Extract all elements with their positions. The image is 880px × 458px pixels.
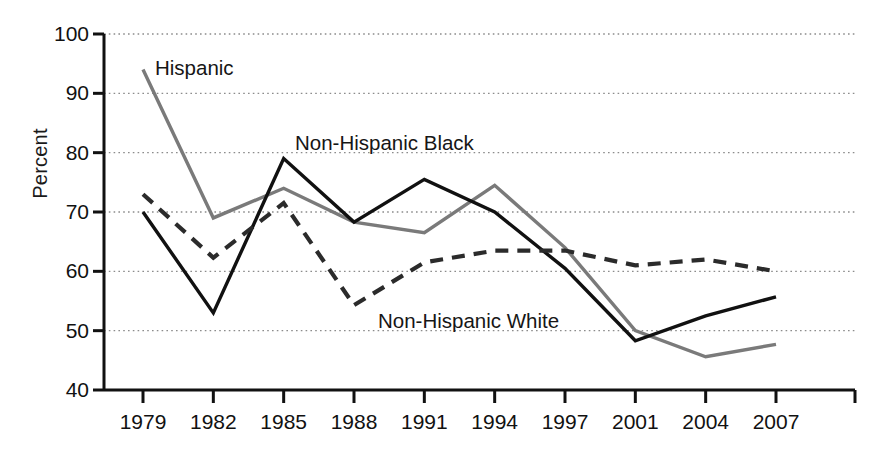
line-chart: Percent 100908070605040 1979198219851988… (0, 0, 880, 458)
x-tick-label: 1997 (530, 411, 600, 432)
gridlines (104, 34, 855, 390)
x-tick-label: 1985 (249, 411, 319, 432)
y-tick-label: 90 (37, 82, 89, 103)
y-tick-label: 40 (37, 379, 89, 400)
series-label-non-hispanic-black: Non-Hispanic Black (295, 133, 474, 154)
y-tick-label: 70 (37, 201, 89, 222)
plot-area (0, 0, 880, 458)
tick-marks (93, 34, 855, 403)
x-tick-label: 1988 (319, 411, 389, 432)
x-tick-label: 2004 (671, 411, 741, 432)
y-tick-label: 100 (37, 23, 89, 44)
x-tick-label: 1979 (108, 411, 178, 432)
y-tick-label: 80 (37, 142, 89, 163)
series-label-hispanic: Hispanic (155, 58, 234, 79)
x-tick-label: 1991 (389, 411, 459, 432)
y-tick-label: 50 (37, 320, 89, 341)
series-label-non-hispanic-white: Non-Hispanic White (378, 311, 559, 332)
x-tick-label: 1994 (460, 411, 530, 432)
x-tick-label: 2007 (741, 411, 811, 432)
x-tick-label: 2001 (600, 411, 670, 432)
x-tick-label: 1982 (178, 411, 248, 432)
y-tick-label: 60 (37, 260, 89, 281)
